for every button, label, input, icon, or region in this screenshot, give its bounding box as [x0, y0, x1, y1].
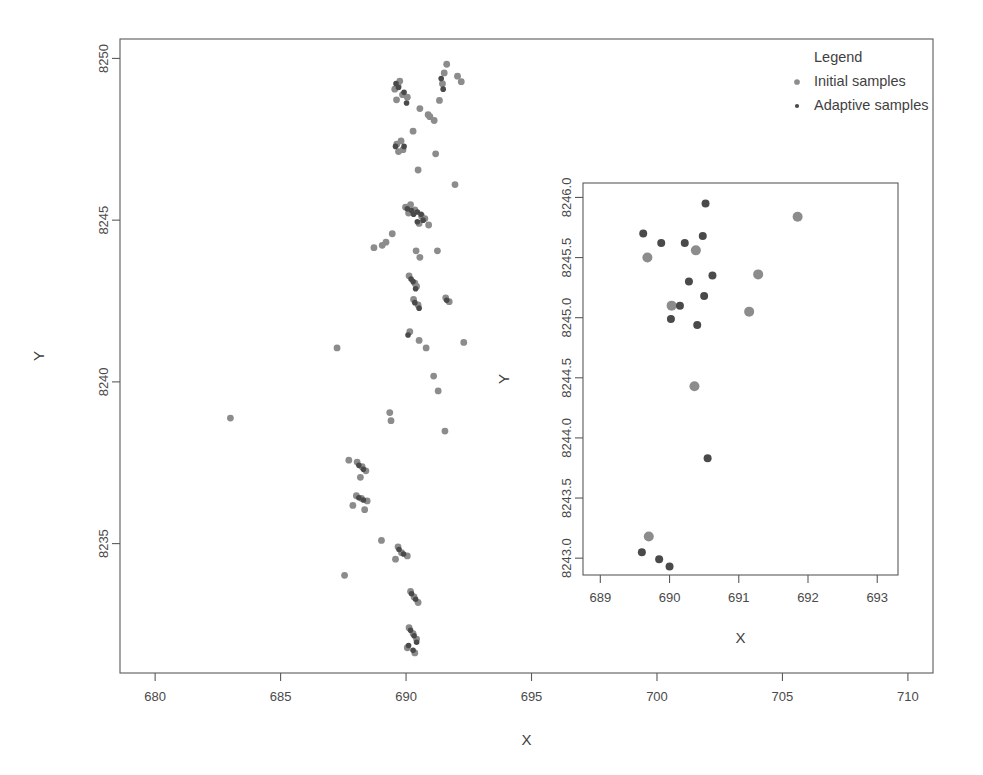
data-point — [410, 648, 416, 654]
data-point — [227, 415, 234, 422]
data-point — [430, 373, 437, 380]
data-point — [401, 90, 407, 96]
inset-y-tick-label: 8246.0 — [560, 178, 575, 218]
x-axis-title: X — [521, 731, 531, 748]
data-point — [438, 76, 444, 82]
inset-x-tick-label: 692 — [797, 590, 819, 605]
y-axis-title: Y — [30, 351, 47, 361]
data-point — [378, 537, 385, 544]
main-panel: 680685690695700705710X8235824082458250Y — [30, 39, 934, 748]
data-point — [415, 167, 422, 174]
data-point — [401, 144, 407, 150]
x-tick-label: 705 — [772, 689, 794, 704]
series-adaptive-samples — [356, 76, 449, 654]
data-point — [458, 78, 465, 85]
inset-data-point — [666, 563, 674, 571]
inset-data-point — [657, 239, 665, 247]
inset-data-point — [667, 301, 677, 311]
scatter-plot-figure: 680685690695700705710X8235824082458250YL… — [0, 0, 983, 775]
data-point — [432, 150, 439, 157]
inset-data-point — [638, 548, 646, 556]
data-point — [393, 96, 400, 103]
inset-data-point — [699, 232, 707, 240]
data-point — [454, 73, 461, 80]
data-point — [409, 591, 415, 597]
inset-data-point — [655, 555, 663, 563]
inset-series-initial-samples — [642, 212, 802, 542]
inset-data-point — [644, 532, 654, 542]
data-point — [425, 222, 432, 229]
inset-data-point — [702, 199, 710, 207]
x-tick-label: 690 — [395, 689, 417, 704]
data-point — [401, 551, 407, 557]
data-point — [435, 388, 442, 395]
data-point — [361, 466, 367, 472]
data-point — [396, 547, 402, 553]
data-point — [444, 298, 450, 304]
data-point — [460, 339, 467, 346]
inset-data-point — [676, 302, 684, 310]
data-point — [452, 181, 459, 188]
data-point — [434, 247, 441, 254]
inset-panel: 689690691692693X8243.08243.58244.08244.5… — [495, 178, 899, 646]
x-tick-label: 680 — [144, 689, 166, 704]
data-point — [416, 337, 423, 344]
data-point — [418, 212, 424, 218]
data-point — [423, 345, 430, 352]
data-point — [443, 61, 450, 68]
data-point — [411, 633, 417, 639]
inset-data-point — [642, 253, 652, 263]
data-point — [395, 148, 402, 155]
data-point — [412, 300, 418, 306]
x-tick-label: 700 — [646, 689, 668, 704]
inset-x-tick-label: 689 — [589, 590, 611, 605]
data-point — [356, 463, 362, 469]
data-point — [386, 409, 393, 416]
inset-x-tick-label: 691 — [728, 590, 750, 605]
series-initial-samples — [227, 61, 467, 657]
legend-label: Adaptive samples — [814, 97, 928, 113]
data-point — [341, 572, 348, 579]
plot-canvas: 680685690695700705710X8235824082458250YL… — [0, 0, 983, 775]
inset-data-point — [691, 245, 701, 255]
data-point — [334, 345, 341, 352]
inset-y-tick-label: 8243.0 — [560, 538, 575, 578]
data-point — [413, 286, 419, 292]
data-point — [345, 457, 352, 464]
data-point — [415, 219, 421, 225]
data-point — [410, 128, 417, 135]
x-tick-label: 685 — [270, 689, 292, 704]
data-point — [379, 242, 386, 249]
inset-data-point — [700, 292, 708, 300]
legend-title: Legend — [814, 49, 862, 65]
main-x-axis: 680685690695700705710X — [144, 673, 918, 748]
inset-data-point — [704, 454, 712, 462]
inset-y-tick-label: 8244.0 — [560, 418, 575, 458]
legend-marker — [794, 79, 800, 85]
inset-data-point — [685, 278, 693, 286]
data-point — [441, 70, 448, 77]
inset-data-point — [753, 269, 763, 279]
inset-data-point — [681, 239, 689, 247]
main-plot-frame — [120, 39, 933, 673]
data-point — [389, 230, 396, 237]
inset-y-tick-label: 8245.0 — [560, 298, 575, 338]
data-point — [388, 417, 395, 424]
legend: LegendInitial samplesAdaptive samples — [794, 49, 928, 113]
data-point — [440, 86, 446, 92]
data-point — [442, 428, 449, 435]
data-point — [371, 244, 378, 251]
data-point — [404, 100, 410, 106]
data-point — [416, 105, 423, 112]
inset-y-tick-label: 8244.5 — [560, 358, 575, 398]
y-tick-label: 8245 — [97, 206, 112, 235]
data-point — [414, 639, 420, 645]
data-point — [413, 596, 419, 602]
inset-data-point — [667, 315, 675, 323]
inset-data-point — [689, 381, 699, 391]
data-point — [416, 305, 422, 311]
inset-y-axis-title: Y — [495, 374, 512, 384]
data-point — [413, 247, 420, 254]
inset-x-axis-title: X — [735, 629, 745, 646]
data-point — [392, 556, 399, 563]
